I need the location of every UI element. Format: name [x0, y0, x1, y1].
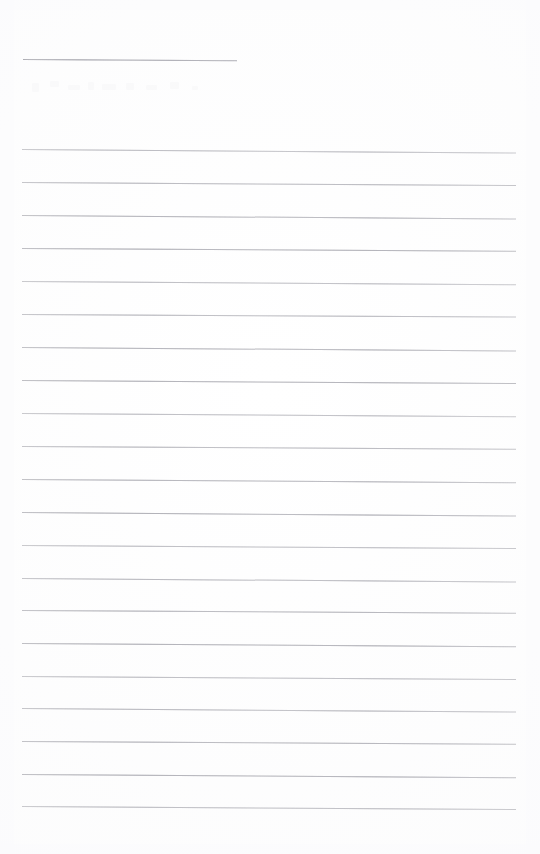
ruled-line — [22, 314, 516, 318]
notebook-page — [0, 0, 540, 854]
ruled-line — [22, 806, 516, 810]
ruled-line — [22, 512, 516, 517]
ruled-line — [22, 610, 516, 614]
paper-texture-overlay — [0, 0, 540, 854]
ruled-line — [22, 741, 516, 745]
ruled-line — [22, 545, 516, 549]
scan-edge-band — [526, 0, 540, 854]
ruled-line — [22, 578, 516, 582]
scan-edge-band — [0, 0, 14, 854]
ghost-mark — [170, 82, 179, 89]
scan-ghost-marks — [30, 80, 210, 98]
ruled-line — [22, 446, 516, 450]
ruled-line — [22, 643, 516, 647]
scan-edge-band — [0, 844, 540, 854]
ruled-line — [22, 413, 516, 417]
ruled-line — [22, 774, 516, 778]
ghost-mark — [146, 85, 157, 90]
ghost-mark — [126, 83, 134, 90]
ruled-line — [22, 182, 516, 186]
header-rule — [23, 59, 237, 61]
scan-edge-band — [0, 0, 540, 10]
ruled-line — [22, 347, 516, 351]
ruled-line — [22, 676, 516, 680]
ruled-line — [22, 248, 516, 252]
ruled-line — [22, 149, 516, 154]
ruled-line — [22, 479, 516, 483]
ghost-mark — [50, 81, 59, 87]
ruled-line — [22, 708, 516, 713]
ruled-line — [22, 215, 516, 219]
ghost-mark — [32, 83, 39, 92]
ghost-mark — [88, 82, 94, 90]
ghost-mark — [102, 84, 116, 90]
ghost-mark — [192, 86, 198, 90]
ruled-line — [22, 380, 516, 384]
ghost-mark — [68, 85, 80, 90]
ruled-line — [22, 281, 516, 285]
